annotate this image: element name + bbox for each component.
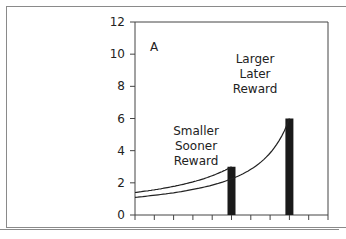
svg-text:Smaller: Smaller — [173, 124, 219, 138]
y-tick-label: 10 — [110, 47, 125, 61]
x-ticks — [135, 215, 328, 220]
y-tick-label: 8 — [117, 79, 125, 93]
annotation-later: Larger Later Reward — [233, 52, 278, 96]
y-ticks: 024681012 — [110, 15, 135, 222]
y-tick-label: 12 — [110, 15, 125, 29]
discount-curve-sooner — [135, 167, 232, 193]
y-tick-label: 4 — [117, 144, 125, 158]
y-tick-label: 2 — [117, 176, 125, 190]
svg-text:Reward: Reward — [174, 154, 219, 168]
svg-text:Later: Later — [239, 67, 270, 81]
y-tick-label: 0 — [117, 208, 125, 222]
bar-larger-later — [285, 119, 293, 216]
svg-text:Reward: Reward — [233, 82, 278, 96]
bar-smaller-sooner — [228, 167, 236, 215]
svg-text:Sooner: Sooner — [175, 139, 217, 153]
y-tick-label: 6 — [117, 112, 125, 126]
svg-text:Larger: Larger — [236, 52, 275, 66]
annotation-sooner: Smaller Sooner Reward — [173, 124, 219, 168]
panel-label: A — [150, 40, 159, 54]
